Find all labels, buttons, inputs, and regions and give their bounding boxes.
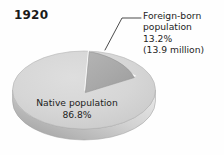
callout-line-3: 13.2% [143,33,224,44]
callout-line-4: (13.9 million) [143,44,224,55]
callout-line-1: Foreign-born [143,10,224,21]
native-slice-name: Native population [36,97,118,108]
callout-line-2: population [143,21,224,32]
pie-chart-figure: 1920 [0,0,224,155]
native-slice-percent: 86.8% [62,109,91,120]
callout-leader-line [105,18,141,50]
foreign-born-callout: Foreign-born population 13.2% (13.9 mill… [143,10,224,56]
